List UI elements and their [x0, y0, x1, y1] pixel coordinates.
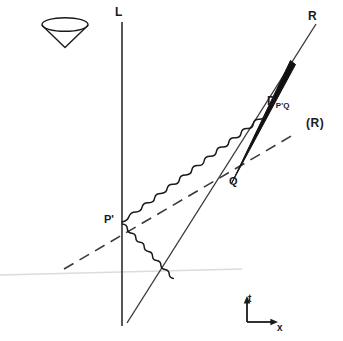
- horizon-line: [0, 269, 242, 275]
- spacetime-diagram-figure: L R (R) Q P' t x DP'Q: [0, 0, 343, 341]
- displacement-symbol: D: [267, 94, 276, 108]
- label-displacement-d-pprimeq: DP'Q: [267, 95, 290, 110]
- label-line-R-parenthetical: (R): [306, 117, 324, 129]
- label-axis-t: t: [248, 294, 251, 304]
- label-axis-x: x: [277, 323, 283, 333]
- displacement-wedge-D-PprimeQ: [232, 61, 296, 184]
- wavy-line-lower: [122, 224, 173, 279]
- inverted-cone-icon: [42, 18, 88, 48]
- label-point-p-prime: P': [104, 214, 114, 225]
- wavy-line-upper: [122, 115, 265, 222]
- label-point-q: Q: [229, 176, 238, 187]
- label-line-L: L: [115, 6, 122, 18]
- dashed-line-R-paren: [64, 135, 293, 269]
- diagram-canvas: [0, 0, 343, 341]
- label-line-R: R: [308, 10, 317, 22]
- displacement-subscript: P'Q: [276, 101, 290, 110]
